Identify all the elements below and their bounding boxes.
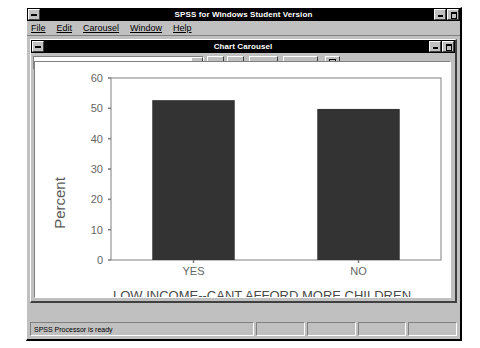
y-axis-tick-label-5: 50 [91, 102, 103, 114]
menu-item-edit[interactable]: Edit [57, 23, 73, 33]
bar-no [317, 109, 400, 260]
application-window: SPSS for Windows Student Version File Ed… [26, 7, 462, 341]
system-menu-icon[interactable] [28, 9, 40, 20]
system-menu-icon[interactable] [32, 41, 44, 52]
bar-yes [152, 100, 235, 260]
y-axis-title: Percent [51, 176, 68, 229]
maximize-icon[interactable] [447, 9, 459, 20]
chart-window-controls [429, 41, 454, 52]
menu-item-window-label: Window [130, 23, 162, 33]
menu-item-carousel-label: Carousel [83, 23, 119, 33]
y-axis-tick-label-4: 40 [91, 133, 103, 145]
status-segment-3 [358, 322, 407, 336]
y-axis-tick-label-2: 20 [91, 193, 103, 205]
x-axis-tick-label-1: NO [350, 265, 367, 277]
bar-series [152, 100, 400, 260]
minimize-icon[interactable] [429, 41, 441, 52]
chart-canvas[interactable]: 0102030405060 YESNO Percent LOW INCOME--… [34, 61, 451, 298]
app-window-controls [434, 9, 459, 20]
y-axis-tick-label-0: 0 [97, 254, 103, 266]
app-titlebar: SPSS for Windows Student Version [27, 8, 460, 21]
y-axis-tick-label-1: 10 [91, 224, 103, 236]
menu-item-carousel[interactable]: Carousel [83, 23, 119, 33]
y-axis-tick-label-6: 60 [91, 72, 103, 84]
x-axis-title: LOW INCOME--CANT AFFORD MORE CHILDREN [113, 288, 411, 297]
status-segment-2 [307, 322, 356, 336]
menu-item-window[interactable]: Window [130, 23, 162, 33]
y-axis-tick-label-3: 30 [91, 163, 103, 175]
menu-item-edit-label: Edit [57, 23, 73, 33]
screenshot-root: SPSS for Windows Student Version File Ed… [0, 0, 480, 348]
status-message: SPSS Processor is ready [30, 322, 254, 336]
y-axis-tick-labels: 0102030405060 [91, 72, 103, 266]
chart-window-titlebar: Chart Carousel [31, 40, 455, 53]
statusbar: SPSS Processor is ready [30, 322, 457, 336]
app-title: SPSS for Windows Student Version [175, 10, 313, 19]
menubar: File Edit Carousel Window Help [27, 21, 460, 36]
bar-chart: 0102030405060 YESNO Percent LOW INCOME--… [35, 62, 450, 297]
minimize-icon[interactable] [434, 9, 446, 20]
menu-item-file[interactable]: File [31, 23, 46, 33]
menu-item-help-label: Help [173, 23, 192, 33]
status-segment-4 [408, 322, 457, 336]
maximize-icon[interactable] [442, 41, 454, 52]
x-axis-tick-label-0: YES [182, 265, 204, 277]
chart-window-title: Chart Carousel [214, 42, 273, 51]
x-axis-tick-labels: YESNO [182, 265, 367, 277]
menu-item-file-label: File [31, 23, 46, 33]
menu-item-help[interactable]: Help [173, 23, 192, 33]
status-segment-1 [256, 322, 305, 336]
chart-carousel-window: Chart Carousel 2:Bar of pct by abpoor ▼ … [30, 39, 457, 303]
